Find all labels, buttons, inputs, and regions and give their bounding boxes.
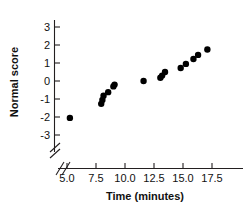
data-point — [67, 115, 73, 121]
y-axis-label: Normal score — [8, 47, 20, 117]
data-point — [177, 65, 183, 71]
y-tick-label: -2 — [40, 111, 50, 123]
x-tick-label: 12.5 — [143, 172, 164, 184]
x-tick-labels: 5.0 7.5 10.0 12.5 15.0 17.5 — [59, 172, 222, 184]
data-point — [105, 89, 111, 95]
data-point — [162, 69, 168, 75]
x-tick-label: 10.0 — [114, 172, 135, 184]
y-tick-label: 0 — [44, 75, 50, 87]
x-tick-label: 7.5 — [88, 172, 103, 184]
x-tick-label: 5.0 — [59, 172, 74, 184]
x-axis-label: Time (minutes) — [106, 190, 184, 202]
y-tick-label: 2 — [44, 39, 50, 51]
data-point — [204, 46, 210, 52]
data-point — [195, 52, 201, 58]
y-tick-label: 1 — [44, 57, 50, 69]
normal-probability-plot: 3 2 1 0 -1 -2 -3 5.0 7.5 10.0 12.5 15.0 … — [0, 0, 251, 210]
y-tick-labels: 3 2 1 0 -1 -2 -3 — [40, 21, 50, 141]
y-tick-label: 3 — [44, 21, 50, 33]
y-tick-marks — [55, 27, 61, 135]
data-point — [140, 78, 146, 84]
data-point — [111, 81, 117, 87]
x-tick-label: 17.5 — [201, 172, 222, 184]
x-tick-marks — [67, 163, 212, 169]
axis-break-icon — [50, 143, 70, 175]
chart-svg: 3 2 1 0 -1 -2 -3 5.0 7.5 10.0 12.5 15.0 … — [0, 0, 251, 210]
y-tick-label: -3 — [40, 129, 50, 141]
data-point — [183, 61, 189, 67]
scatter-points — [67, 46, 211, 121]
x-tick-label: 15.0 — [172, 172, 193, 184]
y-tick-label: -1 — [40, 93, 50, 105]
